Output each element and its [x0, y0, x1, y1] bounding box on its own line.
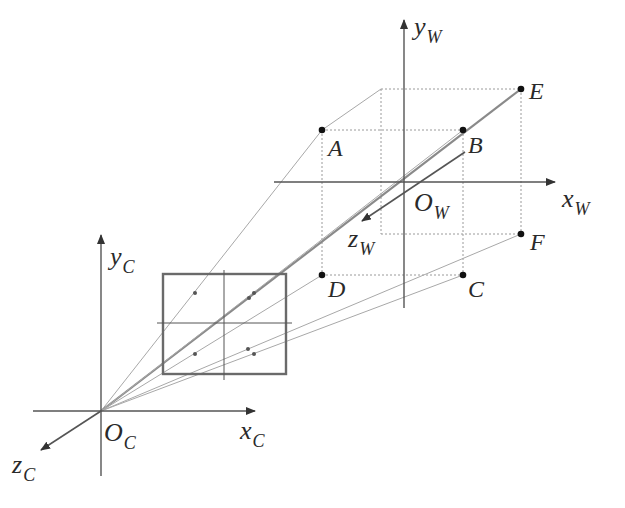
label-point-d: D [328, 277, 345, 301]
projected-point [193, 291, 197, 295]
label-point-b: B [468, 133, 483, 157]
point-c [460, 272, 467, 279]
label-y-world: yW [414, 14, 442, 40]
point-d [319, 272, 326, 279]
point-b [460, 127, 467, 134]
label-x-camera: xC [240, 418, 265, 444]
ray-to-c [101, 275, 463, 411]
ray-to-b [101, 130, 463, 411]
label-x-world: xW [562, 186, 590, 212]
projected-point [252, 291, 256, 295]
projected-point [193, 352, 197, 356]
label-y-camera: yC [110, 244, 135, 270]
label-point-a: A [328, 136, 343, 160]
projected-point [247, 296, 251, 300]
projected-point [246, 347, 250, 351]
point-e [518, 86, 525, 93]
label-point-c: C [468, 277, 484, 301]
label-z-camera: zC [12, 452, 35, 478]
label-origin-world: OW [414, 190, 449, 216]
point-a [319, 127, 326, 134]
axis-z-camera [41, 411, 101, 450]
label-point-f: F [530, 230, 545, 254]
projected-point [252, 352, 256, 356]
ray-to-d [101, 275, 322, 411]
label-point-e: E [529, 79, 544, 103]
edge-a-back [322, 89, 381, 130]
point-f [518, 231, 525, 238]
label-origin-camera: OC [104, 420, 136, 446]
label-z-world: zW [348, 226, 374, 252]
